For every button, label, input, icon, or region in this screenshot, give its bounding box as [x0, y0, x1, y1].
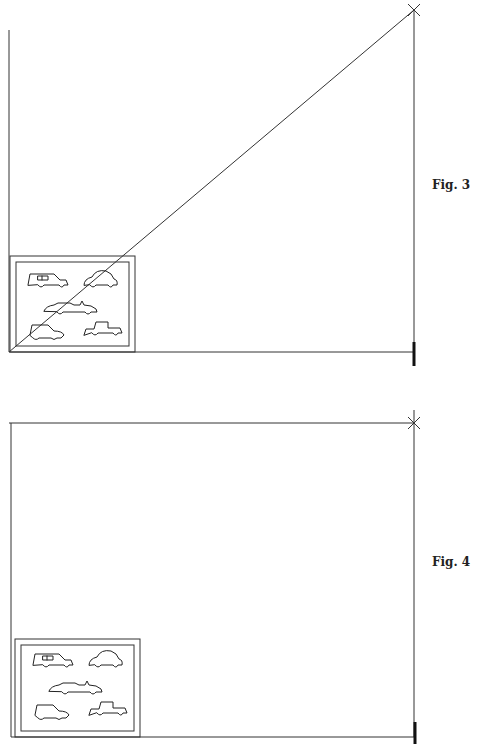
- pickup-icon: [89, 702, 127, 715]
- fig3-cars: [28, 271, 122, 340]
- convertible-icon: [49, 681, 102, 694]
- station-wagon-icon: [33, 654, 73, 667]
- beetle-icon: [89, 651, 122, 667]
- fig3-diagonal: [9, 10, 414, 352]
- fig4-cars: [33, 651, 127, 720]
- station-wagon-icon: [28, 274, 68, 287]
- beetle-icon: [84, 271, 117, 287]
- pickup-icon: [84, 322, 122, 335]
- sedan-icon: [30, 325, 64, 340]
- convertible-icon: [44, 301, 97, 314]
- sedan-icon: [35, 705, 69, 720]
- figure-4-caption: Fig. 4: [432, 555, 470, 569]
- figures-canvas: [0, 0, 483, 744]
- figure-4: [9, 410, 420, 744]
- fig4-picture-outer-frame: [15, 639, 140, 737]
- figure-3-caption: Fig. 3: [432, 178, 470, 192]
- figure-3: [9, 4, 420, 366]
